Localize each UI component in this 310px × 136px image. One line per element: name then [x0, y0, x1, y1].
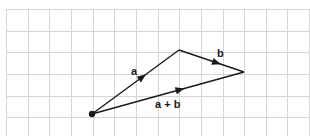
grid	[6, 9, 310, 136]
label-b: b	[217, 47, 224, 59]
label-a-plus-b: a + b	[155, 98, 181, 110]
vector-diagram: a b a + b	[0, 0, 310, 136]
vector-b	[179, 50, 244, 72]
arrowhead-a-icon	[137, 74, 146, 82]
label-a: a	[131, 65, 138, 77]
origin-dot	[89, 111, 95, 117]
